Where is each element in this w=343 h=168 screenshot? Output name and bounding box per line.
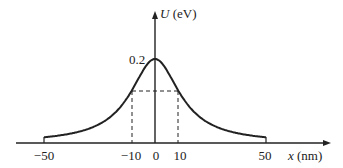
y-axis-arrow-icon (152, 11, 158, 19)
x-axis-arrow-icon (323, 140, 331, 146)
tick-label-50: 50 (259, 148, 272, 163)
chart: U (eV) 0.2 −50 −10 0 10 50 x (nm) (0, 0, 343, 168)
tick-label-10: 10 (174, 148, 187, 163)
x-axis-label: x (nm) (287, 148, 322, 163)
tick-label-m50: −50 (34, 148, 54, 163)
tick-label-m10: −10 (121, 148, 141, 163)
y-axis-label: U (eV) (160, 6, 196, 21)
tick-label-0: 0 (153, 148, 160, 163)
peak-label: 0.2 (129, 52, 145, 67)
